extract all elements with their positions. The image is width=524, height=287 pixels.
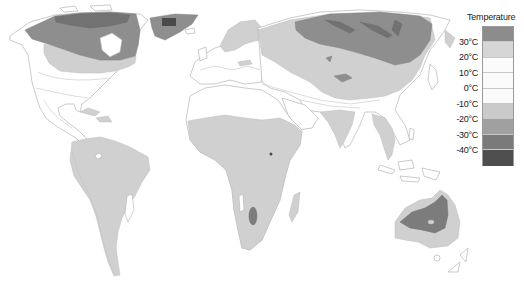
legend-label: 10°C [459, 68, 478, 78]
south-america [70, 137, 150, 276]
legend-color-scale [482, 26, 514, 166]
legend-band [483, 150, 513, 165]
legend-title: Temperature [467, 12, 515, 22]
legend-label: 20°C [459, 52, 478, 62]
africa [186, 85, 302, 250]
legend-band [483, 119, 513, 134]
legend-label: 0°C [464, 83, 478, 93]
legend-label: -30°C [456, 130, 478, 140]
legend-band [483, 89, 513, 104]
legend-band [483, 42, 513, 57]
legend-band [483, 104, 513, 119]
legend-label: 30°C [459, 37, 478, 47]
temperature-legend: Temperature 30°C 20°C 10°C 0°C -10°C -20… [440, 0, 524, 180]
legend-label: -20°C [456, 114, 478, 124]
north-america [10, 5, 198, 146]
legend-label: -10°C [456, 99, 478, 109]
legend-label: -40°C [456, 145, 478, 155]
legend-band [483, 73, 513, 88]
australia [395, 190, 468, 272]
legend-band [483, 58, 513, 73]
legend-band [483, 135, 513, 150]
legend-band [483, 27, 513, 42]
europe [190, 20, 262, 84]
